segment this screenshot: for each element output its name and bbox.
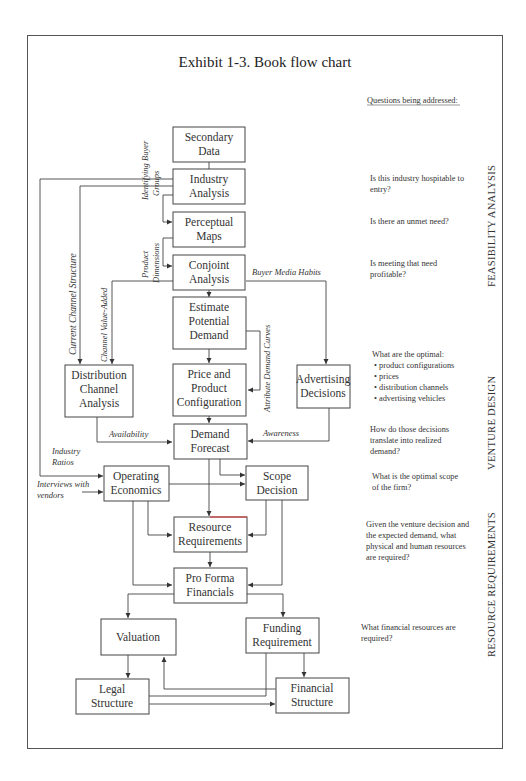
svg-text:Analysis: Analysis bbox=[189, 187, 230, 200]
question-8-line2: required? bbox=[361, 634, 393, 643]
svg-text:Demand: Demand bbox=[190, 329, 229, 341]
box-funding-requirement: Funding Requirement bbox=[246, 618, 319, 653]
section-labels: FEASIBILITY ANALYSIS VENTURE DESIGN RESO… bbox=[486, 165, 497, 657]
question-3: Is meeting that need bbox=[370, 259, 438, 268]
box-estimate-potential-demand: Estimate Potential Demand bbox=[173, 297, 246, 349]
svg-text:Product: Product bbox=[191, 382, 228, 394]
svg-text:Operating: Operating bbox=[113, 470, 159, 483]
question-4-intro: What are the optimal: bbox=[372, 350, 444, 359]
box-advertising-decisions: Advertising Decisions bbox=[296, 365, 351, 408]
svg-text:Distribution: Distribution bbox=[71, 369, 127, 381]
question-6-line2: of the firm? bbox=[372, 483, 411, 492]
svg-text:Funding: Funding bbox=[263, 622, 302, 635]
label-attribute-demand-curves: Attribute Demand Curves bbox=[262, 324, 272, 413]
question-4-item: • product configurations bbox=[374, 361, 454, 370]
label-current-channel-structure: Current Channel Structure bbox=[68, 253, 78, 355]
svg-text:Industry: Industry bbox=[190, 173, 229, 186]
svg-text:Decisions: Decisions bbox=[300, 387, 346, 399]
box-industry-analysis: Industry Analysis bbox=[173, 169, 245, 204]
svg-text:Structure: Structure bbox=[91, 697, 133, 709]
question-6: What is the optimal scope bbox=[372, 472, 458, 481]
box-distribution-channel-analysis: Distribution Channel Analysis bbox=[65, 365, 133, 417]
section-feasibility-analysis: FEASIBILITY ANALYSIS bbox=[486, 165, 497, 287]
question-4-item: • prices bbox=[374, 372, 399, 381]
label-industry-ratios: Industry bbox=[51, 446, 81, 456]
box-scope-decision: Scope Decision bbox=[246, 466, 308, 500]
svg-text:Requirements: Requirements bbox=[178, 535, 242, 548]
box-perceptual-maps: Perceptual Maps bbox=[173, 212, 245, 247]
question-2: Is there an unmet need? bbox=[370, 217, 449, 226]
svg-text:Maps: Maps bbox=[196, 230, 222, 243]
box-demand-forecast: Demand Forecast bbox=[174, 424, 247, 459]
section-venture-design: VENTURE DESIGN bbox=[486, 376, 497, 470]
label-channel-value-added: Channel Value-Added bbox=[99, 287, 109, 362]
svg-text:Structure: Structure bbox=[291, 696, 333, 708]
question-4-item: • advertising vehicles bbox=[374, 394, 445, 403]
label-industry-ratios-line2: Ratios bbox=[51, 457, 74, 467]
svg-text:Configuration: Configuration bbox=[177, 396, 242, 409]
svg-text:Valuation: Valuation bbox=[116, 631, 160, 643]
label-availability: Availability bbox=[108, 429, 148, 439]
question-7-line3: physical and human resources bbox=[366, 542, 466, 551]
svg-text:Demand: Demand bbox=[191, 428, 230, 440]
svg-text:Price and: Price and bbox=[187, 368, 230, 380]
box-conjoint-analysis: Conjoint Analysis bbox=[173, 255, 245, 290]
svg-text:Channel: Channel bbox=[80, 383, 118, 395]
box-resource-requirements: Resource Requirements bbox=[174, 517, 247, 552]
box-pro-forma-financials: Pro Forma Financials bbox=[174, 568, 247, 603]
box-valuation: Valuation bbox=[101, 619, 176, 655]
question-5-line2: translate into realized bbox=[370, 436, 442, 445]
question-3-line2: profitable? bbox=[370, 270, 406, 279]
question-1: Is this industry hospitable to bbox=[370, 174, 464, 183]
svg-text:Secondary: Secondary bbox=[185, 131, 234, 144]
svg-text:Decision: Decision bbox=[257, 484, 298, 496]
question-1-line2: entry? bbox=[370, 185, 391, 194]
svg-text:Forecast: Forecast bbox=[191, 442, 231, 454]
box-price-product-configuration: Price and Product Configuration bbox=[173, 364, 246, 416]
label-interviews-with-vendors: Interviews with bbox=[36, 479, 89, 489]
question-7-line4: are required? bbox=[366, 553, 410, 562]
svg-text:Financial: Financial bbox=[291, 682, 334, 694]
label-identifying-buyer-groups-line2: Groups bbox=[151, 170, 161, 196]
box-financial-structure: Financial Structure bbox=[276, 678, 349, 713]
questions-column: Is this industry hospitable to entry? Is… bbox=[361, 174, 470, 643]
box-legal-structure: Legal Structure bbox=[76, 679, 149, 714]
svg-text:Conjoint: Conjoint bbox=[189, 259, 230, 272]
svg-text:Advertising: Advertising bbox=[296, 373, 351, 386]
svg-text:Requirement: Requirement bbox=[252, 636, 312, 649]
svg-text:Economics: Economics bbox=[110, 484, 162, 496]
svg-text:Perceptual: Perceptual bbox=[185, 216, 234, 229]
svg-text:Estimate: Estimate bbox=[189, 301, 229, 313]
box-secondary-data: Secondary Data bbox=[173, 127, 245, 162]
questions-header: Questions being addressed: bbox=[367, 96, 458, 105]
svg-text:Scope: Scope bbox=[263, 470, 291, 483]
svg-text:Resource: Resource bbox=[189, 521, 232, 533]
svg-text:Legal: Legal bbox=[99, 683, 125, 696]
label-identifying-buyer-groups: Identifying Buyer bbox=[140, 140, 150, 201]
book-flow-chart: Exhibit 1-3. Book flow chart Questions b… bbox=[0, 0, 526, 781]
question-4-item: • distribution channels bbox=[374, 383, 448, 392]
question-5-line3: demand? bbox=[370, 447, 400, 456]
svg-text:Potential: Potential bbox=[189, 315, 230, 327]
question-7: Given the venture decision and bbox=[366, 520, 470, 529]
svg-text:Data: Data bbox=[198, 145, 220, 157]
svg-text:Financials: Financials bbox=[186, 586, 234, 598]
question-8: What financial resources are bbox=[361, 623, 456, 632]
svg-text:Pro Forma: Pro Forma bbox=[186, 572, 235, 584]
svg-text:Analysis: Analysis bbox=[79, 397, 120, 410]
label-awareness: Awareness bbox=[262, 428, 300, 438]
svg-text:Analysis: Analysis bbox=[189, 273, 230, 286]
label-product-dimensions-line2: Dimensions bbox=[151, 242, 161, 284]
section-resource-requirements: RESOURCE REQUIREMENTS bbox=[486, 512, 497, 657]
label-interviews-with-vendors-line2: vendors bbox=[37, 490, 65, 500]
question-5: How do those decisions bbox=[370, 425, 449, 434]
label-buyer-media-habits: Buyer Media Habits bbox=[252, 267, 322, 277]
box-operating-economics: Operating Economics bbox=[104, 466, 169, 501]
label-product-dimensions: Product bbox=[140, 250, 150, 279]
chart-title: Exhibit 1-3. Book flow chart bbox=[179, 54, 353, 70]
question-7-line2: the expected demand, what bbox=[366, 531, 457, 540]
